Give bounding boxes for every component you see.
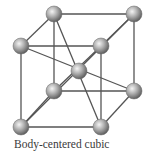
atom-front-bottom-right [93,119,109,135]
bcc-unit-cell-diagram [0,0,151,155]
atom-back-bottom-left [46,83,62,99]
atom-front-top-right [93,38,109,54]
atom-body-center [71,63,87,79]
atom-back-bottom-right [126,83,142,99]
diagram-caption: Body-centered cubic [14,138,151,150]
atom-back-top-left [46,6,62,22]
atom-front-bottom-left [13,119,29,135]
atom-front-top-left [13,38,29,54]
atom-back-top-right [126,6,142,22]
